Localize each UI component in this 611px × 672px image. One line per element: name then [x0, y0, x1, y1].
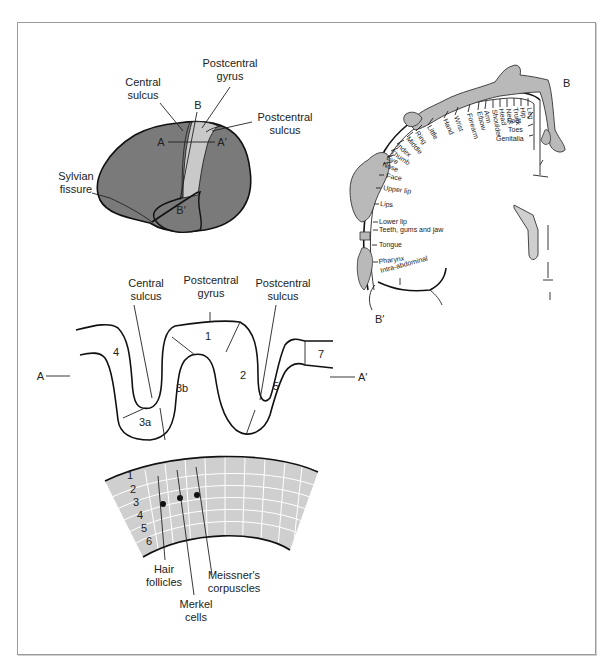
label-sylvian-2: fissure: [60, 183, 92, 195]
label-merkel-2: cells: [185, 611, 208, 623]
bp-little: Little: [426, 124, 440, 140]
sensory-homunculus: Leg Hip Trunk Neck Head Shoulder Arm Elb…: [350, 65, 570, 325]
bp-lips: Lips: [380, 200, 394, 209]
label-merkel-1: Merkel: [179, 598, 212, 610]
xs-label-gyrus-1: Postcentral: [183, 274, 238, 286]
homunculus-label-B-prime: B′: [375, 313, 384, 325]
merkel-cell-dot: [177, 495, 183, 501]
layer-1: 1: [127, 469, 133, 481]
xs-label-sulcus-2: sulcus: [267, 290, 299, 302]
label-central-sulcus-1: Central: [125, 76, 160, 88]
xs-label-sulcus-1: Postcentral: [255, 277, 310, 289]
bp-teeth: Teeth, gums and jaw: [379, 226, 444, 234]
area-5: 5: [273, 380, 279, 392]
layer-2: 2: [130, 483, 136, 495]
layer-4: 4: [137, 509, 143, 521]
bp-genitalia: Genitalia: [496, 135, 524, 142]
xs-label-central-1: Central: [128, 277, 163, 289]
area-3b: 3b: [176, 382, 188, 394]
xs-label-gyrus-2: gyrus: [198, 287, 225, 299]
area-3a: 3a: [139, 416, 152, 428]
layer-6: 6: [146, 535, 152, 547]
label-meissner-1: Meissner's: [208, 569, 261, 581]
layer-5: 5: [141, 522, 147, 534]
label-B-prime: B′: [176, 204, 185, 216]
label-postcentral-sulcus-2: sulcus: [269, 124, 301, 136]
bp-toes: Toes: [508, 126, 523, 133]
meissner-dot: [194, 492, 200, 498]
cortical-layers-diagram: 1 2 3 4 5 6 Hair follicles Merkel cells …: [105, 456, 318, 623]
label-postcentral-gyrus-1: Postcentral: [202, 57, 257, 69]
figure-canvas: Central sulcus Postcentral gyrus Postcen…: [0, 0, 611, 672]
bp-face: Face: [386, 172, 403, 182]
homunculus-label-B: B: [563, 77, 570, 89]
label-hair-2: follicles: [146, 576, 183, 588]
label-postcentral-sulcus-1: Postcentral: [257, 111, 312, 123]
area-1: 1: [205, 330, 211, 342]
label-sylvian-1: Sylvian: [58, 170, 93, 182]
xs-label-central-2: sulcus: [130, 290, 162, 302]
label-postcentral-gyrus-2: gyrus: [217, 70, 244, 82]
bp-foot: Foot: [507, 117, 521, 124]
bp-upper-lip: Upper lip: [383, 184, 412, 196]
area-4: 4: [113, 346, 119, 358]
cortex-cross-section: Central sulcus Postcentral gyrus Postcen…: [37, 274, 368, 440]
label-A: A: [157, 136, 165, 148]
label-meissner-2: corpuscles: [208, 582, 261, 594]
label-A-prime: A′: [217, 136, 226, 148]
ventricle-shape: [514, 205, 538, 260]
xs-label-A: A: [37, 370, 45, 382]
area-7: 7: [318, 348, 324, 360]
brain-lateral-view: Central sulcus Postcentral gyrus Postcen…: [58, 57, 312, 232]
layer-3: 3: [133, 496, 139, 508]
bp-tongue: Tongue: [379, 241, 402, 249]
label-hair-1: Hair: [154, 563, 175, 575]
bp-lower-lip: Lower lip: [379, 218, 407, 226]
bp-hand: Hand: [442, 118, 455, 136]
label-central-sulcus-2: sulcus: [127, 89, 159, 101]
xs-label-A-prime: A′: [358, 371, 367, 383]
area-2: 2: [240, 369, 246, 381]
label-B: B: [194, 99, 201, 111]
